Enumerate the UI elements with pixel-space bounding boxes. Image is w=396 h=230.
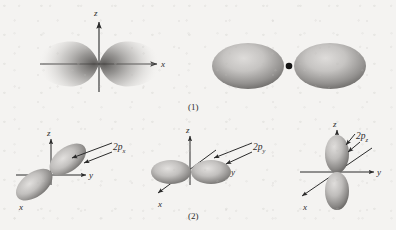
lobe-right: [294, 43, 366, 89]
axis-label-z: z: [185, 125, 190, 135]
orbital-2py: z y x 2py: [151, 125, 266, 209]
density-lobe-right: [99, 42, 162, 87]
orbital-lobes: [151, 160, 231, 184]
boundary-surface-orbital: [212, 43, 366, 89]
electron-density-cloud: z x: [36, 8, 165, 92]
axis-z: z: [93, 8, 99, 92]
label-leader: [214, 143, 252, 164]
axis-label-x: x: [157, 199, 162, 209]
axis-label-x: x: [302, 202, 307, 212]
figure-canvas: z x (1) z: [0, 0, 396, 230]
axis-label-y: y: [88, 170, 93, 180]
orbital-label-2px: 2px: [113, 142, 126, 154]
axis-label-z: z: [46, 128, 51, 138]
orbital-figure: z x (1) z: [0, 0, 396, 230]
lobe-left: [212, 43, 284, 89]
axis-label-z: z: [332, 119, 337, 129]
lobe-positive: [325, 135, 349, 173]
orbital-label-2py: 2py: [253, 142, 266, 154]
orbital-2px: z y x 2px: [10, 128, 125, 212]
lobe-negative: [151, 160, 191, 184]
orbital-2pz: z y x 2pz: [300, 119, 381, 212]
axis-label-y: y: [376, 167, 381, 177]
axis-label-z: z: [93, 8, 98, 18]
lobe-positive: [191, 160, 231, 184]
orbital-label-2pz: 2pz: [356, 131, 369, 143]
caption-panel-1: (1): [188, 102, 199, 112]
lobe-negative: [325, 172, 349, 210]
caption-panel-2: (2): [188, 211, 199, 221]
nucleus-dot: [286, 63, 293, 70]
axis-label-x: x: [18, 202, 23, 212]
density-lobe-left: [36, 42, 99, 87]
